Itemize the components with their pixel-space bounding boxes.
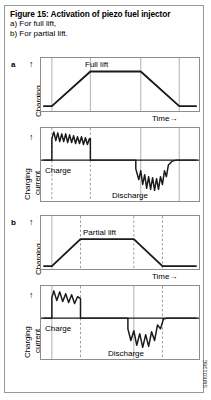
panel-a-lift-x-arrow-icon: → — [169, 114, 177, 123]
panel-b-lift-plot — [40, 215, 200, 270]
panel-b-current-ylabel-line1: Charging — [23, 326, 32, 358]
panel-b-lift-curve-label: Partial lift — [83, 228, 116, 237]
panel-a-current-ylabel-line1: Charging — [23, 168, 32, 200]
panel-letter-b: b — [11, 218, 16, 227]
panel-b-current-y-arrow-icon: ↑ — [29, 291, 34, 300]
panel-b-lift-svg — [41, 216, 199, 269]
figure-caption: Figure 15: Activation of piezo fuel inje… — [10, 9, 200, 38]
panel-a-current-y-arrow-icon: ↑ — [29, 133, 34, 142]
panel-a-charge-label: Charge — [45, 166, 71, 175]
panel-b-discharge-label: Discharge — [108, 349, 144, 358]
figure-container: Figure 15: Activation of piezo fuel inje… — [0, 0, 211, 400]
panel-a-lift-xlabel: Time→ — [152, 114, 177, 123]
figure-title: Figure 15: Activation of piezo fuel inje… — [10, 9, 200, 19]
figure-subtitle-a: a) For full lift, — [10, 19, 200, 29]
panel-a-lift-svg — [41, 58, 199, 111]
panel-a-discharge-label: Discharge — [112, 191, 148, 200]
panel-a-lift-curve-label: Full lift — [85, 60, 108, 69]
panel-letter-a: a — [11, 60, 15, 69]
panel-b-lift-xlabel: Time→ — [152, 272, 177, 281]
figure-subtitle-b: b) For partial lift. — [10, 29, 200, 39]
panel-b-lift-xlabel-text: Time — [152, 272, 169, 281]
panel-a-lift-xlabel-text: Time — [152, 114, 169, 123]
panel-b-lift-y-arrow-icon: ↑ — [29, 218, 34, 227]
panel-b-charge-label: Charge — [45, 324, 71, 333]
panel-b-lift-x-arrow-icon: → — [169, 272, 177, 281]
figure-id-code: SMK0136E — [202, 359, 208, 388]
panel-a-lift-plot — [40, 57, 200, 112]
panel-a-lift-y-arrow-icon: ↑ — [29, 60, 34, 69]
